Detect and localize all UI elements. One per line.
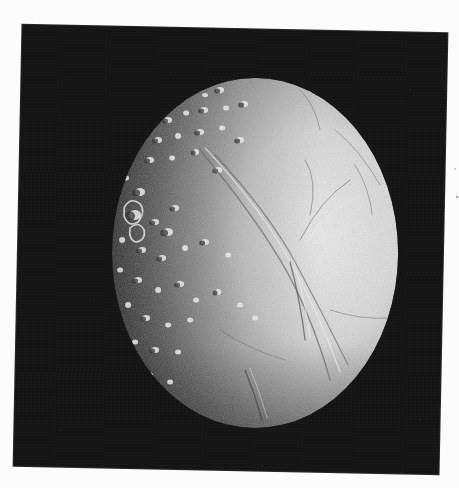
scan-speck bbox=[456, 196, 458, 198]
scan-speck bbox=[454, 168, 456, 170]
photo-frame bbox=[14, 25, 448, 474]
scanned-page bbox=[0, 0, 459, 488]
moon-image bbox=[14, 25, 448, 474]
moon-disc bbox=[110, 75, 410, 435]
